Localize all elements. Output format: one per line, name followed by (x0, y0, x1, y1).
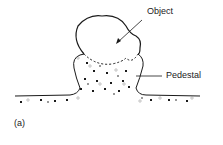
object-pedestal-interface (84, 54, 138, 64)
panel-label: (a) (14, 118, 25, 128)
pedestal-label: Pedestal (166, 70, 201, 80)
object-label: Object (147, 6, 173, 16)
sediment-particles (20, 62, 188, 103)
object-arrowhead (116, 38, 121, 44)
object-outline (76, 16, 141, 54)
ground-surface-line (15, 54, 84, 96)
